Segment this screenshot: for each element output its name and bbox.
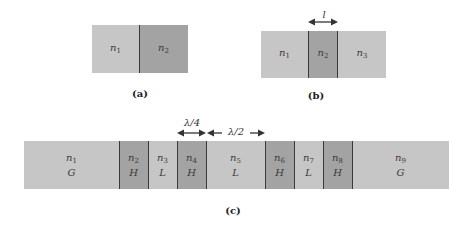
layer-subscript: 6 [280,157,284,165]
quarter-wave-label: λ/4 [184,117,200,128]
half-wave-label: λ/2 [227,126,245,137]
layer-type: H [275,167,284,179]
caption-c: (c) [225,205,241,216]
layer-n3-L: n3 L [148,141,177,189]
layer-subscript: 2 [324,52,328,60]
layer-n2: n2 [308,31,338,78]
layer-type: H [333,167,342,179]
layer-n9-G: n9 G [352,141,449,189]
layer-subscript: 8 [338,157,342,165]
layer-type: G [397,167,405,179]
figure-b-thin-film: n1 n2 n3 [261,31,386,78]
layer-subscript: 2 [164,47,168,55]
layer-type: H [129,167,138,179]
interface-line [352,141,353,189]
interface-line [265,141,266,189]
caption-a: (a) [132,88,148,99]
layer-type: L [159,167,166,179]
layer-subscript: 4 [192,157,196,165]
interface-line [337,31,338,78]
layer-n2-H: n2 H [119,141,148,189]
quarter-wave-arrow-icon [177,129,206,137]
layer-n1: n1 [92,25,139,73]
layer-type: H [187,167,196,179]
layer-subscript: 1 [72,157,76,165]
layer-subscript: 1 [116,47,120,55]
interface-line [206,141,207,189]
layer-subscript: 3 [163,157,167,165]
interface-line [294,141,295,189]
layer-type: L [232,167,239,179]
layer-n3: n3 [338,31,386,78]
interface-line [148,141,149,189]
layer-subscript: 7 [309,157,313,165]
layer-subscript: 3 [363,52,367,60]
caption-b: (b) [308,90,324,101]
layer-n4-H: n4 H [177,141,206,189]
layer-subscript: 5 [236,157,240,165]
layer-n1-G: n1 G [24,141,119,189]
layer-subscript: 1 [285,52,289,60]
layer-n2: n2 [139,25,188,73]
layer-n7-L: n7 L [294,141,323,189]
figure-c-multilayer-stack: n1 G n2 H n3 L n4 H n5 L n6 H n7 L n8 H … [24,141,449,189]
layer-n1: n1 [261,31,308,78]
layer-n5-L: n5 L [206,141,265,189]
interface-line [119,141,120,189]
layer-subscript: 2 [134,157,138,165]
layer-n8-H: n8 H [323,141,352,189]
interface-line [177,141,178,189]
layer-type: G [68,167,76,179]
interface-line [323,141,324,189]
layer-subscript: 9 [401,157,405,165]
interface-line [308,31,309,78]
layer-n6-H: n6 H [265,141,294,189]
layer-type: L [305,167,312,179]
figure-a-interface: n1 n2 [92,25,188,73]
interface-line [139,25,140,73]
double-arrow-icon [308,18,338,26]
